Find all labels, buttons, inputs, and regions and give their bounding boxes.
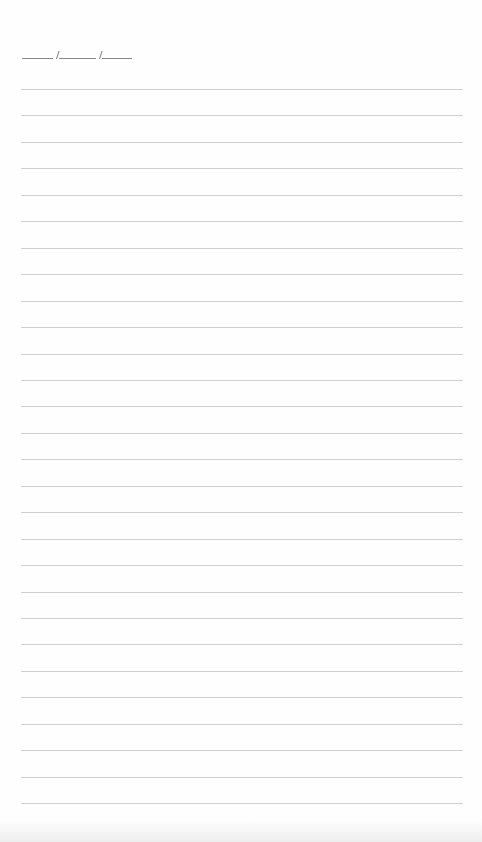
ruled-line: [21, 380, 463, 381]
notepaper-page: [0, 0, 482, 842]
bottom-edge-shadow: [0, 820, 482, 842]
ruled-line: [21, 142, 463, 143]
ruled-line: [21, 248, 463, 249]
ruled-line: [21, 644, 463, 645]
ruled-line: [21, 301, 463, 302]
date-year-blank[interactable]: [102, 58, 132, 59]
ruled-line: [21, 327, 463, 328]
ruled-line: [21, 671, 463, 672]
ruled-line: [21, 195, 463, 196]
ruled-line: [21, 724, 463, 725]
ruled-line: [21, 803, 463, 804]
ruled-line: [21, 697, 463, 698]
ruled-line: [21, 777, 463, 778]
ruled-line: [21, 89, 463, 90]
ruled-line: [21, 115, 463, 116]
ruled-line: [21, 221, 463, 222]
ruled-line: [21, 168, 463, 169]
ruled-line: [21, 406, 463, 407]
date-field[interactable]: [22, 45, 142, 59]
ruled-line: [21, 354, 463, 355]
ruled-line: [21, 750, 463, 751]
ruled-line: [21, 565, 463, 566]
date-day-blank[interactable]: [59, 58, 96, 59]
date-month-blank[interactable]: [22, 58, 53, 59]
ruled-line: [21, 486, 463, 487]
ruled-line: [21, 274, 463, 275]
ruled-line: [21, 539, 463, 540]
ruled-line: [21, 512, 463, 513]
ruled-line: [21, 433, 463, 434]
ruled-line: [21, 618, 463, 619]
ruled-line: [21, 592, 463, 593]
ruled-line: [21, 459, 463, 460]
